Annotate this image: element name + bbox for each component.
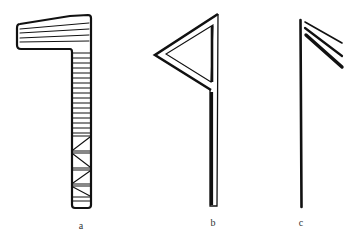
- glyph-c: [301, 20, 343, 207]
- glyph-a-zigzag-section: [73, 133, 90, 201]
- glyph-a: [17, 15, 91, 208]
- panel-label-b: b: [211, 218, 216, 228]
- glyph-a-outline: [17, 15, 91, 208]
- panel-label-a: a: [79, 221, 83, 231]
- glyph-a-stem-rungs: [73, 53, 90, 128]
- glyph-b-flag-outer: [155, 14, 218, 90]
- figure-canvas: [0, 0, 353, 239]
- panel-label-c: c: [299, 218, 303, 228]
- glyph-c-stem: [301, 20, 302, 207]
- glyph-a-head-hatching: [20, 23, 89, 42]
- glyph-b: [155, 14, 218, 206]
